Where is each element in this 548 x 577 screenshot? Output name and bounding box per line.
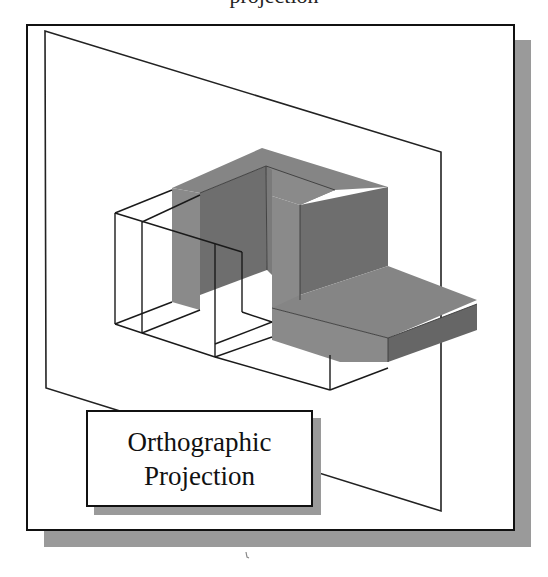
label-box: Orthographic Projection <box>86 410 313 507</box>
orthographic-projection-figure: projection <box>0 0 548 577</box>
right-upright-front-face <box>272 196 300 308</box>
label-line-1: Orthographic <box>128 425 272 459</box>
stray-mark <box>246 552 249 558</box>
label-line-2: Projection <box>144 459 255 493</box>
